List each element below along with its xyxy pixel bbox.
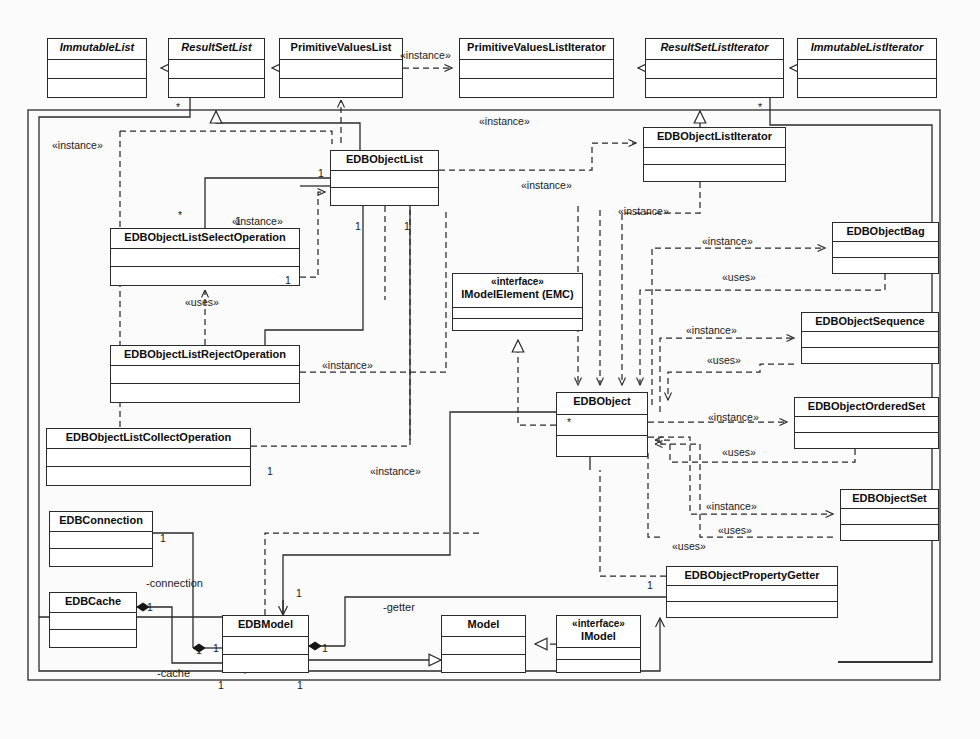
multiplicity-label: 1 — [285, 275, 291, 286]
uml-class-primitivevalueslistiterator[interactable]: PrimitiveValuesListIterator — [459, 38, 614, 98]
class-name-compartment: EDBObjectListIterator — [644, 128, 785, 148]
multiplicity-label: 1 — [267, 466, 273, 477]
uml-class-edbobjectlistcollectoperation[interactable]: EDBObjectListCollectOperation — [46, 428, 251, 486]
uml-class-edbobjectlist[interactable]: EDBObjectList — [330, 150, 439, 206]
dependency-label: «instance» — [370, 466, 421, 477]
uml-class-edbobjectpropertygetter[interactable]: EDBObjectPropertyGetter — [666, 566, 838, 618]
class-name-compartment: PrimitiveValuesList — [280, 39, 402, 60]
class-name-compartment: EDBObject — [557, 393, 647, 415]
class-operations-compartment — [557, 436, 647, 456]
class-name-compartment: PrimitiveValuesListIterator — [460, 39, 613, 60]
class-attributes-compartment — [453, 308, 582, 319]
role-label: -getter — [383, 602, 415, 613]
class-operations-compartment — [280, 79, 402, 97]
class-operations-compartment — [223, 655, 308, 672]
multiplicity-label: 1 — [147, 602, 153, 613]
uml-class-resultsetlistiterator[interactable]: ResultSetListIterator — [645, 38, 784, 98]
class-name-text: IModel — [581, 630, 616, 642]
class-operations-compartment — [557, 660, 640, 672]
class-name-compartment: EDBObjectOrderedSet — [795, 398, 938, 417]
uml-class-edbcache[interactable]: EDBCache — [49, 592, 137, 648]
class-attributes-compartment — [798, 60, 936, 79]
dependency-label: «uses» — [722, 272, 756, 283]
role-label: -cache — [157, 668, 190, 679]
class-attributes-compartment — [280, 60, 402, 79]
multiplicity-label: 1 — [296, 588, 302, 599]
class-operations-compartment — [667, 602, 837, 617]
uml-class-imodelelement[interactable]: «interface»IModelElement (EMC) — [452, 273, 583, 331]
class-attributes-compartment — [460, 60, 613, 79]
class-attributes-compartment — [111, 366, 299, 384]
multiplicity-label: 1 — [235, 216, 241, 227]
class-operations-compartment — [798, 79, 936, 97]
class-stereotype: «interface» — [560, 618, 637, 630]
class-name-compartment: EDBModel — [223, 616, 308, 637]
role-label: -connection — [146, 578, 203, 589]
multiplicity-label: 1 — [160, 533, 166, 544]
class-name-compartment: EDBObjectList — [331, 151, 438, 171]
uml-class-edbobjectset[interactable]: EDBObjectSet — [840, 489, 939, 541]
uml-class-edbconnection[interactable]: EDBConnection — [49, 511, 153, 567]
class-attributes-compartment — [331, 171, 438, 188]
uml-class-immutablelistiterator[interactable]: ImmutableListIterator — [797, 38, 937, 98]
class-name-compartment: ResultSetListIterator — [646, 39, 783, 60]
multiplicity-label: 1 — [647, 580, 653, 591]
class-operations-compartment — [833, 258, 938, 273]
uml-class-immutablelist[interactable]: ImmutableList — [47, 38, 147, 98]
uml-class-model[interactable]: Model — [441, 615, 526, 673]
class-attributes-compartment — [169, 60, 264, 79]
class-operations-compartment — [50, 630, 136, 647]
class-attributes-compartment — [833, 242, 938, 258]
class-name-compartment: «interface»IModelElement (EMC) — [453, 274, 582, 308]
class-attributes-compartment — [223, 637, 308, 655]
dependency-label: «uses» — [722, 447, 756, 458]
class-attributes-compartment — [111, 249, 299, 267]
uml-class-resultsetlist[interactable]: ResultSetList — [168, 38, 265, 98]
class-name-compartment: EDBObjectBag — [833, 223, 938, 242]
uml-class-diagram: ImmutableListResultSetListPrimitiveValue… — [0, 0, 980, 739]
class-operations-compartment — [169, 79, 264, 97]
class-name-compartment: ImmutableList — [48, 39, 146, 60]
class-name-compartment: EDBObjectSet — [841, 490, 938, 509]
class-operations-compartment — [111, 384, 299, 402]
multiplicity-label: 1 — [404, 221, 410, 232]
class-operations-compartment — [331, 188, 438, 205]
uml-class-edbmodel[interactable]: EDBModel — [222, 615, 309, 673]
multiplicity-label: * — [176, 102, 180, 113]
dependency-label: «uses» — [672, 541, 706, 552]
dependency-label: «instance» — [322, 360, 373, 371]
class-name-text: IModelElement (EMC) — [461, 288, 573, 300]
multiplicity-label: 1 — [213, 643, 219, 654]
class-operations-compartment — [442, 655, 525, 672]
multiplicity-label: 1 — [196, 645, 202, 656]
dependency-label: «instance» — [618, 206, 669, 217]
class-attributes-compartment — [47, 449, 250, 467]
class-operations-compartment — [841, 525, 938, 540]
multiplicity-label: 1 — [355, 221, 361, 232]
class-attributes-compartment — [442, 637, 525, 655]
class-attributes-compartment — [557, 648, 640, 660]
multiplicity-label: 1 — [322, 643, 328, 654]
uml-class-edbobjectbag[interactable]: EDBObjectBag — [832, 222, 939, 274]
class-operations-compartment — [48, 79, 146, 97]
uml-class-edbobjectlistiterator[interactable]: EDBObjectListIterator — [643, 127, 786, 182]
multiplicity-label: 1 — [318, 168, 324, 179]
uml-class-edbobjectlistselectoperation[interactable]: EDBObjectListSelectOperation — [110, 228, 300, 286]
uml-class-edbobjectlistrejectoperation[interactable]: EDBObjectListRejectOperation — [110, 345, 300, 403]
uml-class-primitivevalueslist[interactable]: PrimitiveValuesList — [279, 38, 403, 98]
multiplicity-label: 1 — [297, 680, 303, 691]
class-attributes-compartment — [841, 509, 938, 525]
multiplicity-label: * — [758, 102, 762, 113]
uml-class-edbobjectorderedset[interactable]: EDBObjectOrderedSet — [794, 397, 939, 449]
dependency-label: «instance» — [706, 501, 757, 512]
uml-class-edbobjectsequence[interactable]: EDBObjectSequence — [801, 312, 939, 364]
class-name-compartment: ImmutableListIterator — [798, 39, 936, 60]
dependency-label: «instance» — [702, 236, 753, 247]
class-operations-compartment — [50, 549, 152, 566]
class-attributes-compartment — [50, 613, 136, 630]
class-operations-compartment — [795, 433, 938, 448]
class-name-compartment: EDBConnection — [50, 512, 152, 532]
uml-class-imodel[interactable]: «interface»IModel — [556, 615, 641, 673]
class-operations-compartment — [644, 165, 785, 181]
class-stereotype: «interface» — [456, 276, 579, 288]
